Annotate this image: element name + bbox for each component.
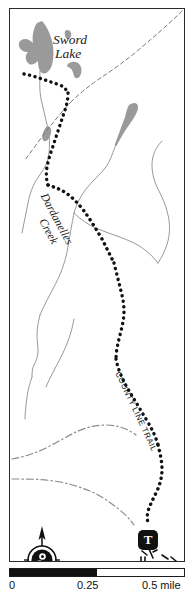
trailhead-track-marks bbox=[141, 549, 176, 562]
scale-label-max: 0.5 mile bbox=[142, 579, 181, 591]
creek-pond bbox=[42, 126, 51, 141]
map-canvas bbox=[10, 9, 185, 562]
trail-segment-mid bbox=[114, 263, 124, 359]
scale-bar bbox=[9, 568, 185, 577]
stream-mid-right bbox=[74, 213, 158, 263]
north-arrow-icon bbox=[21, 524, 63, 562]
stream-lower-left bbox=[40, 213, 74, 315]
stream-network bbox=[22, 71, 170, 419]
trail-segment-west-spur bbox=[24, 74, 68, 93]
trail-map-figure: Sword Lake Dardanelles Creek COUNTY LINE… bbox=[0, 0, 194, 600]
trail-segment-lower bbox=[147, 445, 162, 523]
stream-far-left-segment bbox=[25, 377, 32, 419]
scale-bar-filled-segment bbox=[10, 569, 97, 576]
scale-label-mid: 0.25 bbox=[77, 579, 98, 591]
east-pond bbox=[115, 103, 138, 146]
pond-lower-lake bbox=[67, 62, 81, 78]
road-lower-branch bbox=[12, 479, 134, 525]
trailhead-marker: T bbox=[138, 530, 158, 550]
dash-dot-road bbox=[12, 425, 136, 525]
trail-segment-county-line bbox=[116, 359, 158, 445]
stream-lower-mid bbox=[46, 319, 74, 387]
road-upper-branch bbox=[12, 425, 136, 459]
stream-east-branch bbox=[152, 141, 170, 263]
county-line-trail-path bbox=[24, 74, 162, 523]
scale-label-min: 0 bbox=[9, 579, 15, 591]
sword-lake-polygon bbox=[19, 21, 54, 74]
stream-upper-right bbox=[74, 147, 115, 213]
stream-bottom-left-tail bbox=[32, 315, 40, 377]
sword-lake-islet bbox=[65, 30, 72, 39]
scale-bar-group: 0 0.25 0.5 mile bbox=[9, 568, 185, 598]
water-bodies bbox=[19, 21, 138, 146]
map-frame: Sword Lake Dardanelles Creek COUNTY LINE… bbox=[9, 8, 185, 562]
dardanelles-creek-line bbox=[22, 71, 50, 233]
